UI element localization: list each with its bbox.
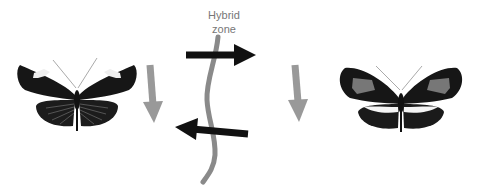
- right-butterfly-image: [340, 66, 462, 132]
- gene-flow-right-arrow-icon: [186, 44, 256, 66]
- selection-down-arrow-right-icon: [288, 65, 308, 122]
- selection-down-arrow-left-icon: [143, 65, 163, 123]
- diagram-canvas: [0, 0, 479, 196]
- left-butterfly-image: [17, 58, 136, 131]
- hybrid-zone-line: [203, 37, 218, 182]
